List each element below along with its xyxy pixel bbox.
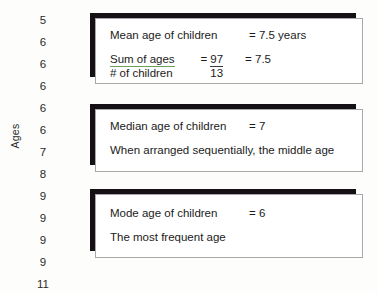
mean-denominator-text: # of children [110, 67, 175, 80]
mean-ratio-expression: Sum of ages # of children [110, 53, 175, 80]
ages-value-list: 5 6 6 6 6 6 7 8 9 9 9 9 11 [30, 9, 56, 293]
median-note: When arranged sequentially, the middle a… [110, 144, 334, 156]
mode-note: The most frequent age [110, 231, 226, 243]
ages-axis-label: Ages [9, 108, 21, 164]
mean-label: Mean age of children [110, 29, 217, 41]
list-item: 6 [30, 119, 56, 141]
list-item: 9 [30, 251, 56, 273]
median-result: = 7 [249, 120, 265, 132]
list-item: 6 [30, 53, 56, 75]
mean-fraction-denominator: 13 [210, 67, 223, 80]
median-callout-box: Median age of children = 7 When arranged… [95, 109, 363, 172]
slide-canvas: Ages 5 6 6 6 6 6 7 8 9 9 9 9 11 Mean age… [0, 0, 378, 293]
list-item: 6 [30, 31, 56, 53]
mean-result: = 7.5 years [249, 29, 306, 41]
mean-callout-box: Mean age of children = 7.5 years Sum of … [95, 18, 363, 84]
mean-final-value: = 7.5 [245, 53, 271, 66]
equals-sign: = [201, 53, 208, 66]
list-item: 6 [30, 97, 56, 119]
list-item: 9 [30, 229, 56, 251]
list-item: 8 [30, 163, 56, 185]
median-label: Median age of children [110, 120, 226, 132]
list-item: 11 [30, 273, 56, 293]
list-item: 9 [30, 207, 56, 229]
list-item: 6 [30, 75, 56, 97]
mode-result: = 6 [249, 207, 265, 219]
mode-callout-box: Mode age of children = 6 The most freque… [95, 194, 363, 258]
list-item: 5 [30, 9, 56, 31]
mean-fraction-numerator: 97 [210, 53, 223, 67]
mean-numeric-fraction: 97 13 [210, 53, 223, 80]
mean-numerator-text: Sum of ages [110, 53, 175, 67]
list-item: 7 [30, 141, 56, 163]
mean-formula: Sum of ages # of children = 97 13 = 7.5 [110, 53, 271, 80]
mode-label: Mode age of children [110, 207, 217, 219]
list-item: 9 [30, 185, 56, 207]
